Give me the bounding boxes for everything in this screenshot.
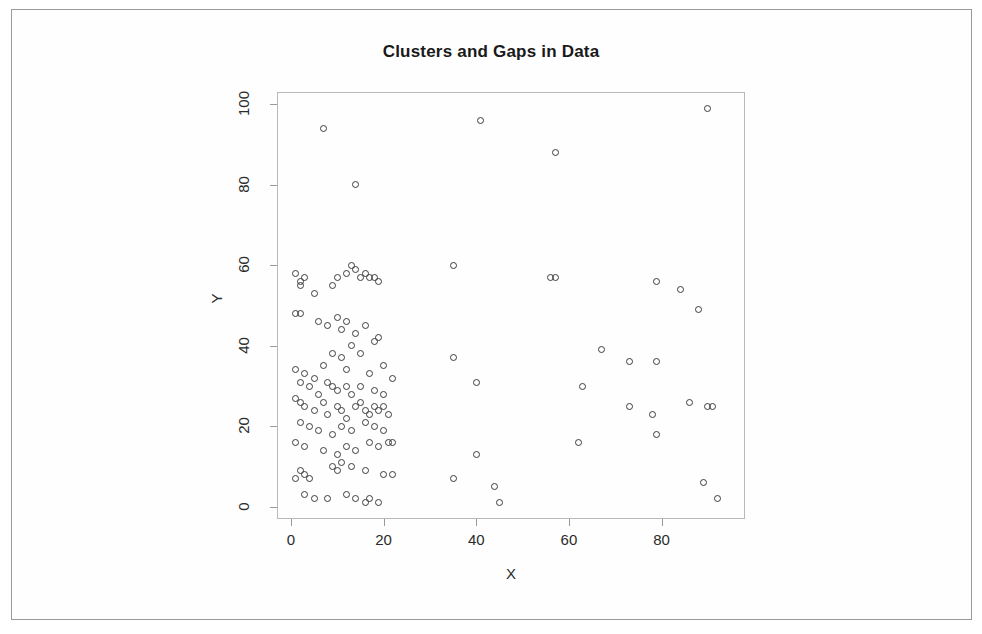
data-point (348, 427, 355, 434)
data-point (385, 411, 392, 418)
data-point (311, 290, 318, 297)
data-point (473, 379, 480, 386)
data-point (450, 354, 457, 361)
data-point (579, 383, 586, 390)
data-point (352, 447, 359, 454)
data-point (375, 499, 382, 506)
data-point (334, 467, 341, 474)
data-point (343, 443, 350, 450)
data-point (371, 423, 378, 430)
data-point (552, 149, 559, 156)
data-point (491, 483, 498, 490)
data-point (329, 350, 336, 357)
data-point (352, 495, 359, 502)
data-point (292, 270, 299, 277)
data-point (450, 262, 457, 269)
y-axis-tick (270, 507, 277, 508)
x-axis-tick (384, 519, 385, 526)
data-point (375, 443, 382, 450)
data-point (301, 443, 308, 450)
y-axis-tick (270, 265, 277, 266)
data-point (653, 358, 660, 365)
data-point (297, 310, 304, 317)
data-point (357, 399, 364, 406)
y-axis-label: Y (208, 279, 225, 319)
data-point (366, 411, 373, 418)
x-axis-tick (476, 519, 477, 526)
data-point (375, 334, 382, 341)
data-point (306, 423, 313, 430)
data-point (348, 391, 355, 398)
data-point (357, 383, 364, 390)
data-point (306, 475, 313, 482)
data-point (389, 471, 396, 478)
data-point (473, 451, 480, 458)
data-point (700, 479, 707, 486)
data-point (352, 330, 359, 337)
data-point (301, 491, 308, 498)
x-axis-tick-label: 20 (364, 531, 404, 548)
y-axis-tick (270, 426, 277, 427)
data-point (320, 399, 327, 406)
data-point (297, 419, 304, 426)
data-point (338, 354, 345, 361)
figure-root: Clusters and Gaps in Data 020406080 0204… (0, 0, 982, 634)
y-axis-tick-label: 20 (235, 403, 252, 449)
data-point (380, 403, 387, 410)
data-point (380, 471, 387, 478)
data-point (315, 427, 322, 434)
data-point (362, 322, 369, 329)
data-point (311, 495, 318, 502)
scatter-plot: Clusters and Gaps in Data 020406080 0204… (0, 0, 982, 634)
data-point (320, 447, 327, 454)
data-point (329, 282, 336, 289)
data-point (292, 366, 299, 373)
data-point (348, 342, 355, 349)
data-point (371, 387, 378, 394)
y-axis-tick-label: 40 (235, 322, 252, 368)
data-point (366, 370, 373, 377)
data-point (343, 318, 350, 325)
data-point (334, 314, 341, 321)
data-point (686, 399, 693, 406)
data-point (334, 387, 341, 394)
data-point (334, 451, 341, 458)
y-axis-tick-label: 0 (235, 483, 252, 529)
data-point (709, 403, 716, 410)
data-point (649, 411, 656, 418)
data-point (598, 346, 605, 353)
data-point (695, 306, 702, 313)
x-axis-tick (291, 519, 292, 526)
data-point (324, 322, 331, 329)
data-point (343, 415, 350, 422)
data-point (306, 383, 313, 390)
data-points-layer (277, 92, 745, 519)
data-point (380, 362, 387, 369)
data-point (311, 407, 318, 414)
data-point (348, 463, 355, 470)
x-axis-tick-label: 80 (642, 531, 682, 548)
y-axis-tick-label: 100 (235, 81, 252, 127)
data-point (357, 350, 364, 357)
data-point (334, 274, 341, 281)
data-point (324, 411, 331, 418)
x-axis-tick (662, 519, 663, 526)
data-point (338, 407, 345, 414)
data-point (343, 366, 350, 373)
data-point (292, 475, 299, 482)
y-axis-tick (270, 104, 277, 105)
y-axis-tick (270, 346, 277, 347)
y-axis-tick-label: 80 (235, 161, 252, 207)
data-point (338, 459, 345, 466)
y-axis-tick-label: 60 (235, 242, 252, 288)
data-point (301, 370, 308, 377)
x-axis-tick-label: 40 (456, 531, 496, 548)
data-point (324, 495, 331, 502)
data-point (375, 278, 382, 285)
data-point (496, 499, 503, 506)
data-point (704, 105, 711, 112)
data-point (301, 274, 308, 281)
data-point (362, 467, 369, 474)
data-point (380, 391, 387, 398)
data-point (380, 427, 387, 434)
